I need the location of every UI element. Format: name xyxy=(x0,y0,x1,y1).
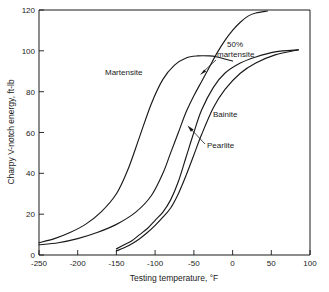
annotation-50-martensite-line1: 50% xyxy=(227,40,243,49)
y-tick-label-100: 100 xyxy=(22,47,36,56)
charpy-impact-energy-chart: 0 20 40 60 80 100 120 -250 -200 -150 -10… xyxy=(0,0,329,292)
x-tick-label-m250: -250 xyxy=(31,259,48,268)
x-tick-label-0: 0 xyxy=(230,259,235,268)
y-axis-tick-labels: 0 20 40 60 80 100 120 xyxy=(22,6,36,260)
x-tick-label-m50: -50 xyxy=(188,259,200,268)
y-tick-label-80: 80 xyxy=(26,88,35,97)
annotation-50-martensite-leader xyxy=(203,60,216,72)
y-axis-title: Charpy V-notch energy, ft-lb xyxy=(6,79,16,184)
series-label-martensite: Martensite xyxy=(105,68,143,77)
y-tick-label-20: 20 xyxy=(26,210,35,219)
x-tick-label-m150: -150 xyxy=(108,259,125,268)
x-tick-label-50: 50 xyxy=(267,259,276,268)
x-tick-label-m200: -200 xyxy=(70,259,87,268)
x-axis-title: Testing temperature, °F xyxy=(130,273,218,283)
data-curves xyxy=(39,11,298,251)
x-tick-label-100: 100 xyxy=(303,259,317,268)
y-tick-label-60: 60 xyxy=(26,129,35,138)
y-tick-label-40: 40 xyxy=(26,169,35,178)
annotation-50-martensite-line2: martensite xyxy=(217,50,255,59)
curve-pearlite-lower xyxy=(116,50,298,251)
plot-frame xyxy=(39,10,310,255)
x-axis-tick-labels: -250 -200 -150 -100 -50 0 50 100 xyxy=(31,259,317,268)
curve-martensite xyxy=(39,56,233,243)
x-tick-label-m100: -100 xyxy=(147,259,164,268)
y-axis-ticks xyxy=(39,10,44,255)
x-axis-ticks xyxy=(39,250,310,255)
series-label-bainite: Bainite xyxy=(213,110,238,119)
chart-canvas: 0 20 40 60 80 100 120 -250 -200 -150 -10… xyxy=(0,0,329,292)
series-label-pearlite: Pearlite xyxy=(207,141,235,150)
y-tick-label-120: 120 xyxy=(22,6,36,15)
